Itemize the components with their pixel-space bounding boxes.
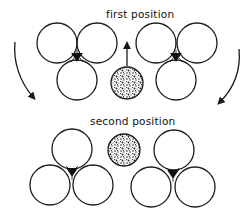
speckled-particle-first bbox=[111, 67, 143, 99]
second-position-right-cluster bbox=[131, 130, 215, 207]
sphere bbox=[73, 165, 113, 205]
left-rotation-arrow bbox=[15, 42, 33, 97]
first-position-label: first position bbox=[106, 8, 174, 20]
sphere bbox=[52, 129, 92, 169]
sphere bbox=[177, 23, 217, 63]
second-position-label: second position bbox=[90, 115, 175, 127]
sphere bbox=[175, 167, 215, 207]
right-rotation-arrow bbox=[220, 49, 239, 102]
sphere bbox=[136, 23, 176, 63]
second-right-junction bbox=[169, 171, 177, 177]
second-left-junction bbox=[68, 169, 76, 175]
sphere bbox=[131, 167, 171, 207]
sphere bbox=[37, 23, 77, 63]
sphere bbox=[57, 60, 97, 100]
second-position-left-cluster bbox=[30, 129, 113, 205]
first-position-right-cluster bbox=[136, 23, 217, 100]
sphere bbox=[77, 23, 117, 63]
sphere bbox=[30, 165, 70, 205]
speckled-particle-second bbox=[108, 134, 140, 166]
first-left-junction bbox=[73, 54, 81, 60]
particle-position-diagram: first position second position bbox=[0, 0, 249, 221]
sphere bbox=[156, 60, 196, 100]
first-right-junction bbox=[172, 54, 180, 60]
sphere bbox=[154, 130, 194, 170]
